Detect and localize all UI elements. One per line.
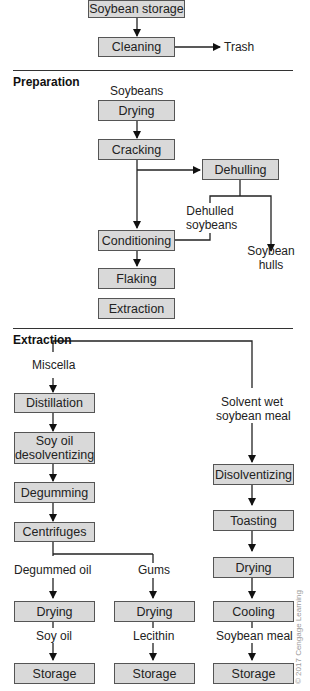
box-cleaning: Cleaning (98, 37, 175, 57)
box-dehulling: Dehulling (202, 159, 279, 180)
box-label: Toasting (230, 514, 277, 528)
box-drying: Drying (98, 100, 175, 121)
box-centrifuges: Centrifuges (14, 522, 95, 542)
box-flaking: Flaking (98, 268, 175, 289)
box-distillation: Distillation (14, 393, 95, 413)
label-trash: Trash (224, 40, 254, 54)
label-soybean-hulls: Soybeanhulls (246, 244, 296, 272)
box-lecithin-storage: Storage (114, 663, 195, 684)
box-label: Storage (133, 667, 177, 681)
label-line: desolventizing (15, 448, 94, 462)
box-label: Cleaning (112, 40, 161, 54)
label-gums: Gums (138, 563, 170, 577)
label-lecithin: Lecithin (133, 629, 174, 643)
section-divider (13, 70, 293, 71)
label-line: hulls (259, 258, 284, 272)
box-label: Drying (118, 104, 154, 118)
box-oil-storage: Storage (14, 663, 95, 684)
box-label: Drying (235, 561, 271, 575)
box-label: Cracking (112, 143, 161, 157)
section-title-preparation: Preparation (13, 75, 80, 89)
box-label: Storage (33, 667, 77, 681)
box-soybean-storage: Soybean storage (88, 0, 185, 18)
box-label: Cooling (232, 605, 274, 619)
box-label: Extraction (109, 302, 165, 316)
label-soy-oil: Soy oil (36, 629, 72, 643)
box-label: Conditioning (102, 234, 172, 248)
box-label: Soybean storage (89, 2, 184, 16)
section-divider (13, 328, 293, 329)
label-degummed-oil: Degummed oil (14, 563, 91, 577)
box-label: Disolventizing (215, 468, 292, 482)
box-label: Storage (232, 667, 276, 681)
label-line: Soybean (247, 244, 294, 258)
box-extraction: Extraction (98, 298, 175, 319)
label-soybeans: Soybeans (110, 84, 163, 98)
label-line: soybean meal (216, 409, 291, 423)
copyright-credit: © 2017 Cengage Learning (294, 590, 303, 684)
label-line: Soy oil (36, 434, 74, 448)
label-solvent-wet-meal: Solvent wetsoybean meal (216, 395, 288, 423)
box-label: Centrifuges (23, 525, 87, 539)
box-label: Degumming (21, 486, 88, 500)
section-title-extraction: Extraction (13, 333, 72, 347)
label-dehulled-soybeans: Dehulledsoybeans (186, 204, 234, 232)
box-label: Drying (36, 605, 72, 619)
box-gums-drying: Drying (114, 601, 195, 622)
box-soy-oil-desolventizing: Soy oildesolventizing (14, 432, 95, 464)
box-meal-storage: Storage (213, 663, 294, 684)
box-label: Distillation (26, 396, 83, 410)
label-line: soybeans (186, 218, 237, 232)
box-oil-drying: Drying (14, 601, 95, 622)
label-line: Dehulled (186, 204, 233, 218)
box-meal-drying: Drying (213, 557, 294, 578)
label-soybean-meal: Soybean meal (216, 629, 293, 643)
box-label: Drying (136, 605, 172, 619)
box-cracking: Cracking (98, 139, 175, 160)
label-miscella: Miscella (32, 358, 75, 372)
box-label: Flaking (116, 272, 156, 286)
box-degumming: Degumming (14, 482, 95, 503)
box-label: Dehulling (214, 163, 266, 177)
box-toasting: Toasting (213, 510, 294, 531)
box-label: Soy oildesolventizing (15, 434, 94, 462)
label-line: Solvent wet (221, 395, 283, 409)
box-cooling: Cooling (213, 601, 294, 622)
box-conditioning: Conditioning (98, 230, 175, 251)
box-disolventizing: Disolventizing (213, 464, 294, 485)
